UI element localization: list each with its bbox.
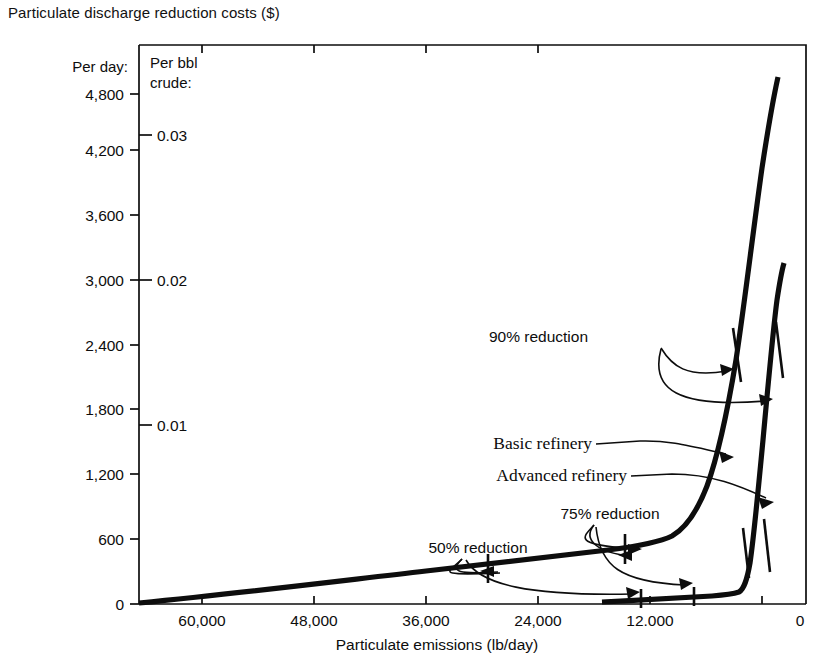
annotation-75-arrowhead-right — [679, 578, 693, 590]
y-tick-label-0: 0 — [115, 596, 124, 613]
annotation-basic-refinery-arrowhead — [719, 451, 734, 463]
plot-frame-top-right — [139, 45, 806, 604]
annotation-basic-refinery-leader — [596, 441, 726, 454]
y-tick-label-4800: 4,800 — [85, 86, 124, 103]
x-tick-label-60000: 60,000 — [178, 612, 226, 629]
annotation-90-leader-right — [659, 349, 765, 402]
y-tick-label-3600: 3,600 — [85, 207, 124, 224]
chart-canvas: Per day: Per bbl crude: 0 600 1,200 1,80… — [0, 0, 838, 664]
y-tick-label-600: 600 — [98, 531, 124, 548]
annotation-90-reduction-label: 90% reduction — [489, 328, 588, 345]
x-axis-ticks: 60,000 48,000 36,000 24,000 12.000 0 — [178, 596, 804, 629]
x-tick-label-36000: 36,000 — [402, 612, 450, 629]
marker-tick-advanced-steep — [764, 519, 770, 572]
y-tick-label-1200: 1,200 — [85, 466, 124, 483]
annotation-90-leader-left — [661, 348, 727, 373]
y-tick-label-2400: 2,400 — [85, 337, 124, 354]
annotation-advanced-refinery-label: Advanced refinery — [496, 465, 627, 485]
y-left-header: Per day: — [72, 58, 128, 75]
x-axis-title: Particulate emissions (lb/day) — [336, 636, 538, 653]
annotation-50-arrowhead-right — [626, 587, 640, 599]
y-tick-label-1800: 1,800 — [85, 401, 124, 418]
annotation-75-reduction-label: 75% reduction — [560, 505, 659, 522]
x-tick-label-0: 0 — [796, 612, 805, 629]
y2-tick-label-003: 0.03 — [157, 127, 187, 144]
series-line-basic-refinery — [139, 77, 778, 603]
y2-tick-label-002: 0.02 — [157, 272, 187, 289]
y-tick-label-4200: 4,200 — [85, 142, 124, 159]
top-axis-ticks — [202, 45, 538, 53]
y-tick-label-3000: 3,000 — [85, 272, 124, 289]
annotation-50-reduction-label: 50% reduction — [428, 539, 527, 556]
y-right-header-line1: Per bbl — [150, 54, 198, 71]
y2-tick-label-001: 0.01 — [157, 417, 187, 434]
x-tick-label-24000: 24,000 — [514, 612, 562, 629]
annotation-advanced-refinery-arrowhead — [758, 497, 774, 509]
annotation-basic-refinery-label: Basic refinery — [493, 433, 592, 453]
annotation-advanced-refinery-leader — [631, 474, 766, 498]
y-left-ticks: 0 600 1,200 1,800 2,400 3,000 3,600 4,20… — [85, 86, 139, 613]
x-tick-label-48000: 48,000 — [290, 612, 338, 629]
y-right-ticks: 0.01 0.02 0.03 — [139, 127, 187, 434]
marker-tick-90-advanced — [776, 322, 783, 378]
x-tick-label-12000: 12.000 — [626, 612, 674, 629]
y-right-header-line2: crude: — [150, 74, 192, 91]
figure-root: Particulate discharge reduction costs ($… — [0, 0, 838, 664]
